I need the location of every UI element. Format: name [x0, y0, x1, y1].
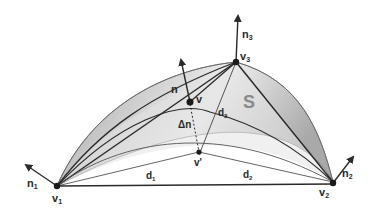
label-v1: v1	[52, 192, 62, 205]
vertex-v3	[233, 59, 239, 65]
label-d1: d1	[146, 170, 156, 182]
surface-patch-diagram: v3 n3 n v S d3 Δn v' d1 d2 n1 v1 n2 v2	[0, 0, 374, 212]
vertex-v2	[330, 180, 336, 186]
label-n: n	[171, 83, 178, 95]
normal-arrow-n3	[236, 16, 238, 62]
label-surface-s: S	[243, 92, 255, 112]
label-n1: n1	[27, 177, 38, 190]
label-n3: n3	[242, 28, 253, 41]
vertex-v1	[54, 183, 60, 189]
label-v: v	[196, 93, 203, 105]
point-v	[187, 99, 194, 106]
edge-v1-v2	[57, 184, 333, 186]
label-delta-n: Δn	[178, 119, 191, 130]
point-v-prime	[196, 149, 201, 154]
label-d2: d2	[243, 169, 253, 181]
label-n2: n2	[342, 167, 353, 180]
label-v3: v3	[240, 50, 250, 63]
label-v-prime: v'	[194, 157, 202, 168]
label-v2: v2	[319, 186, 329, 199]
